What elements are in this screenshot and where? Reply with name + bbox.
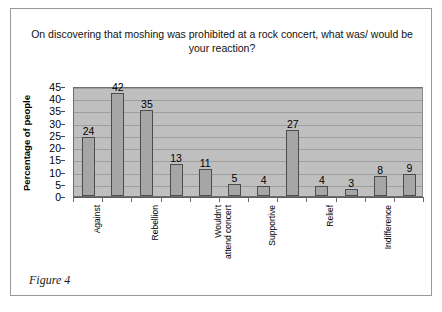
y-tick-mark bbox=[61, 87, 65, 88]
bar bbox=[374, 176, 387, 196]
bar-value-label: 9 bbox=[396, 163, 422, 174]
y-tick-label: 35 bbox=[49, 106, 61, 116]
bar-value-label: 3 bbox=[338, 178, 364, 189]
x-tick-label-line-2: attend concert bbox=[224, 205, 234, 279]
y-tick-label: 45 bbox=[49, 82, 61, 92]
bar-value-label: 8 bbox=[367, 165, 393, 176]
plot-wrapper: Percentage of people 454035302520151050 … bbox=[63, 87, 423, 295]
figure-frame: On discovering that moshing was prohibit… bbox=[10, 8, 432, 296]
bar bbox=[228, 184, 241, 196]
x-tick-label: Supportive bbox=[268, 205, 281, 279]
y-tick-label: 10 bbox=[49, 168, 61, 178]
bar bbox=[286, 130, 299, 196]
bar-value-label: 11 bbox=[192, 158, 218, 169]
y-tick-label: 40 bbox=[49, 94, 61, 104]
y-tick-mark bbox=[61, 111, 65, 112]
y-tick-label: 30 bbox=[49, 119, 61, 129]
bar-value-label: 4 bbox=[309, 175, 335, 186]
x-tick-mark bbox=[306, 197, 307, 202]
x-tick-label: Rebellion bbox=[151, 205, 164, 279]
x-tick-mark bbox=[277, 197, 278, 202]
bar bbox=[82, 137, 95, 196]
x-tick-mark bbox=[336, 197, 337, 202]
x-tick-mark bbox=[423, 197, 424, 202]
x-tick-label: Against bbox=[93, 205, 106, 279]
x-tick-mark bbox=[131, 197, 132, 202]
bar bbox=[345, 189, 358, 196]
x-tick-mark bbox=[219, 197, 220, 202]
chart-title-line-1: On discovering that moshing was prohibit… bbox=[31, 28, 368, 40]
plot-area: 244235131154274389 bbox=[73, 87, 423, 197]
bar bbox=[315, 186, 328, 196]
x-tick-label: Indifference bbox=[384, 205, 397, 279]
x-tick-mark bbox=[73, 197, 74, 202]
bar-value-label: 24 bbox=[76, 126, 102, 137]
bar-value-label: 4 bbox=[251, 175, 277, 186]
y-tick-mark bbox=[61, 148, 65, 149]
y-tick-mark bbox=[61, 160, 65, 161]
y-tick-mark bbox=[61, 99, 65, 100]
y-tick-mark bbox=[61, 124, 65, 125]
x-tick-mark bbox=[248, 197, 249, 202]
y-tick-label: 15 bbox=[49, 155, 61, 165]
bar bbox=[257, 186, 270, 196]
bar bbox=[111, 93, 124, 196]
y-tick-mark bbox=[61, 136, 65, 137]
bar-value-label: 13 bbox=[163, 153, 189, 164]
y-tick-mark bbox=[61, 197, 65, 198]
bar-value-label: 5 bbox=[221, 173, 247, 184]
y-axis-title: Percentage of people bbox=[21, 87, 35, 199]
bars-layer: 244235131154274389 bbox=[74, 88, 422, 196]
x-tick-mark bbox=[190, 197, 191, 202]
y-axis-tick-labels: 454035302520151050 bbox=[41, 87, 61, 197]
bar-value-label: 35 bbox=[134, 99, 160, 110]
figure-caption: Figure 4 bbox=[29, 273, 70, 288]
y-tick-label: 25 bbox=[49, 131, 61, 141]
x-tick-mark bbox=[102, 197, 103, 202]
bar-value-label: 42 bbox=[105, 82, 131, 93]
bar bbox=[140, 110, 153, 196]
x-tick-label: Relief bbox=[326, 205, 339, 279]
y-tick-mark bbox=[61, 185, 65, 186]
bar bbox=[170, 164, 183, 196]
x-tick-mark bbox=[365, 197, 366, 202]
x-tick-mark bbox=[394, 197, 395, 202]
x-tick-mark bbox=[161, 197, 162, 202]
bar bbox=[403, 174, 416, 196]
bar bbox=[199, 169, 212, 196]
y-tick-label: 20 bbox=[49, 143, 61, 153]
chart-title: On discovering that moshing was prohibit… bbox=[29, 27, 415, 55]
x-tick-label: Wouldn'tattend concert bbox=[214, 205, 236, 279]
bar-value-label: 27 bbox=[280, 119, 306, 130]
y-tick-mark bbox=[61, 173, 65, 174]
